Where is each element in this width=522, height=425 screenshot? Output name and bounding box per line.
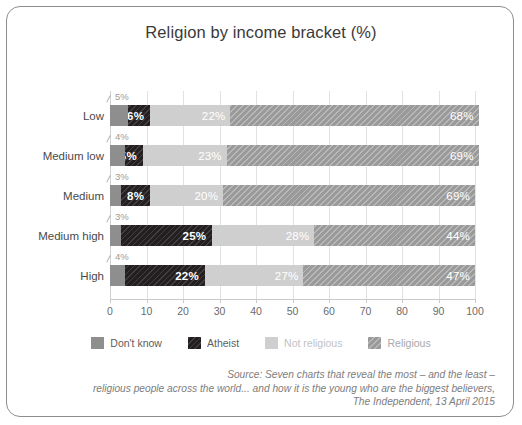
- source-line-1: Source: Seven charts that reveal the mos…: [27, 368, 495, 382]
- bar-segment[interactable]: 22%: [125, 265, 205, 286]
- axis-tick: [366, 299, 367, 303]
- category-label: Medium: [8, 190, 104, 202]
- bar-segment[interactable]: 20%: [150, 185, 223, 206]
- bar-segment[interactable]: [110, 225, 121, 246]
- legend-label: Don't know: [110, 337, 162, 349]
- segment-callout: 5%: [115, 91, 129, 102]
- axis-tick-label: 40: [250, 305, 262, 317]
- bar-segment[interactable]: 27%: [205, 265, 304, 286]
- segment-value-label: 69%: [450, 150, 474, 162]
- bar-segment[interactable]: 69%: [223, 185, 475, 206]
- segment-value-label: 22%: [202, 110, 226, 122]
- legend: Don't knowAtheistNot religiousReligious: [7, 337, 514, 349]
- axis-tick-label: 100: [466, 305, 484, 317]
- bar-segment[interactable]: 6%: [128, 105, 150, 126]
- bar-segment[interactable]: [110, 185, 121, 206]
- category-label: High: [8, 270, 104, 282]
- legend-label: Religious: [387, 337, 430, 349]
- x-axis: 0102030405060708090100: [110, 299, 475, 319]
- segment-value-label: 6%: [128, 110, 144, 122]
- callout-value: 4%: [115, 251, 129, 262]
- bar-row: 4%5%23%69%: [110, 145, 475, 166]
- legend-label: Atheist: [207, 337, 239, 349]
- segment-callout: 4%: [115, 131, 129, 142]
- segment-value-label: 5%: [125, 150, 137, 162]
- bar-segment[interactable]: 5%: [125, 145, 143, 166]
- legend-item[interactable]: Atheist: [188, 337, 239, 349]
- callout-value: 4%: [115, 131, 129, 142]
- bar-row: 4%22%27%47%: [110, 265, 475, 286]
- bar-segment[interactable]: 23%: [143, 145, 227, 166]
- category-label: Medium low: [8, 150, 104, 162]
- segment-value-label: 22%: [175, 270, 199, 282]
- axis-tick: [402, 299, 403, 303]
- axis-tick: [475, 299, 476, 303]
- axis-tick-label: 20: [177, 305, 189, 317]
- category-label: Medium high: [8, 230, 104, 242]
- legend-swatch: [91, 337, 104, 349]
- bar-segment[interactable]: [110, 265, 125, 286]
- source-line-2: religious people across the world... and…: [27, 382, 495, 396]
- legend-swatch: [368, 337, 381, 349]
- bar-segment[interactable]: [110, 145, 125, 166]
- callout-value: 3%: [115, 211, 129, 222]
- source-note: Source: Seven charts that reveal the mos…: [27, 368, 495, 409]
- segment-value-label: 8%: [127, 190, 144, 202]
- legend-item[interactable]: Don't know: [91, 337, 162, 349]
- bar-row: 3%25%28%44%: [110, 225, 475, 246]
- axis-tick-label: 60: [323, 305, 335, 317]
- plot-area: 5%6%22%68%4%5%23%69%3%8%20%69%3%25%28%44…: [110, 91, 475, 299]
- bar-row: 5%6%22%68%: [110, 105, 475, 126]
- segment-callout: 4%: [115, 251, 129, 262]
- segment-value-label: 68%: [450, 110, 474, 122]
- bar-segment[interactable]: 44%: [314, 225, 475, 246]
- axis-tick: [439, 299, 440, 303]
- bar-segment[interactable]: 47%: [303, 265, 475, 286]
- segment-value-label: 44%: [446, 230, 470, 242]
- bar-segment[interactable]: [110, 105, 128, 126]
- callout-value: 5%: [115, 91, 129, 102]
- segment-value-label: 27%: [275, 270, 299, 282]
- bar-segment[interactable]: 69%: [227, 145, 479, 166]
- source-line-1-rest: Seven charts that reveal the most – and …: [262, 369, 495, 380]
- segment-value-label: 23%: [198, 150, 222, 162]
- segment-value-label: 47%: [446, 270, 470, 282]
- bar-segment[interactable]: 28%: [212, 225, 314, 246]
- legend-swatch: [265, 337, 278, 349]
- bar-segment[interactable]: 8%: [121, 185, 150, 206]
- category-label: Low: [8, 110, 104, 122]
- legend-swatch: [188, 337, 201, 349]
- axis-tick-label: 30: [214, 305, 226, 317]
- bar-segment[interactable]: 25%: [121, 225, 212, 246]
- source-lead: Source:: [227, 369, 262, 380]
- bar-segment[interactable]: 68%: [230, 105, 478, 126]
- bar-row: 3%8%20%69%: [110, 185, 475, 206]
- axis-tick-label: 80: [396, 305, 408, 317]
- axis-tick: [293, 299, 294, 303]
- legend-label: Not religious: [284, 337, 342, 349]
- category-axis: LowMedium lowMediumMedium highHigh: [7, 91, 104, 299]
- chart-card: Religion by income bracket (%) LowMedium…: [6, 6, 514, 417]
- source-line-3: The Independent, 13 April 2015: [27, 395, 495, 409]
- axis-tick: [110, 299, 111, 303]
- callout-value: 3%: [115, 171, 129, 182]
- axis-tick: [329, 299, 330, 303]
- axis-tick-label: 70: [360, 305, 372, 317]
- axis-tick: [147, 299, 148, 303]
- axis-tick-label: 50: [287, 305, 299, 317]
- axis-tick-label: 10: [141, 305, 153, 317]
- axis-tick-label: 0: [107, 305, 113, 317]
- axis-tick: [220, 299, 221, 303]
- page-title: Religion by income bracket (%): [7, 23, 514, 42]
- segment-callout: 3%: [115, 171, 129, 182]
- segment-value-label: 20%: [195, 190, 219, 202]
- segment-value-label: 28%: [286, 230, 310, 242]
- bar-segment[interactable]: 22%: [150, 105, 230, 126]
- legend-item[interactable]: Religious: [368, 337, 430, 349]
- segment-value-label: 69%: [446, 190, 470, 202]
- axis-tick: [256, 299, 257, 303]
- segment-value-label: 25%: [183, 230, 207, 242]
- segment-callout: 3%: [115, 211, 129, 222]
- axis-tick-label: 90: [433, 305, 445, 317]
- legend-item[interactable]: Not religious: [265, 337, 342, 349]
